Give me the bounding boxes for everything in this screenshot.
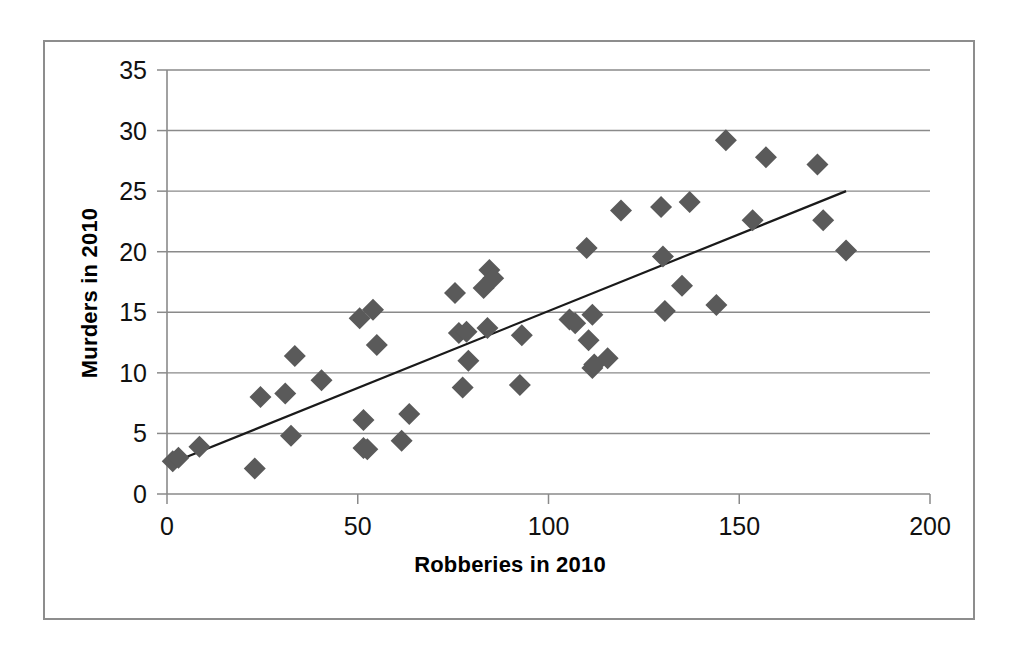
x-tick-label-100: 100 [528, 512, 570, 541]
data-point [650, 196, 672, 218]
trendline [173, 191, 846, 462]
y-tick-label-35: 35 [47, 56, 147, 85]
data-point [249, 386, 271, 408]
data-point [280, 425, 302, 447]
data-point [398, 403, 420, 425]
data-point [755, 146, 777, 168]
data-point [671, 275, 693, 297]
data-point [812, 209, 834, 231]
data-point [284, 345, 306, 367]
x-tick-label-150: 150 [718, 512, 760, 541]
data-point [244, 458, 266, 480]
data-point [366, 334, 388, 356]
data-point [652, 246, 674, 268]
axis-lines-group [167, 70, 930, 494]
chart-figure: 05101520253035050100150200 Robberies in … [0, 0, 1020, 653]
data-point [576, 237, 598, 259]
x-axis-title: Robberies in 2010 [0, 552, 1020, 578]
y-tick-label-0: 0 [47, 480, 147, 509]
x-tick-label-50: 50 [344, 512, 372, 541]
data-point [806, 153, 828, 175]
data-point [715, 129, 737, 151]
data-point [509, 374, 531, 396]
trendline-group [173, 191, 846, 462]
data-point [274, 382, 296, 404]
x-tick-marks-group [167, 494, 930, 504]
data-point [654, 300, 676, 322]
data-point [578, 329, 600, 351]
data-points-group [162, 129, 857, 479]
data-point [476, 317, 498, 339]
data-point [610, 200, 632, 222]
data-point [742, 209, 764, 231]
data-point [444, 282, 466, 304]
x-tick-label-0: 0 [160, 512, 174, 541]
y-tick-marks-group [157, 70, 167, 494]
gridlines-group [167, 70, 930, 433]
data-point [452, 376, 474, 398]
y-tick-label-30: 30 [47, 116, 147, 145]
y-axis-title: Murders in 2010 [77, 143, 103, 443]
data-point [679, 191, 701, 213]
data-point [511, 324, 533, 346]
x-tick-label-200: 200 [909, 512, 951, 541]
data-point [835, 240, 857, 262]
data-point [457, 350, 479, 372]
data-point [352, 409, 374, 431]
